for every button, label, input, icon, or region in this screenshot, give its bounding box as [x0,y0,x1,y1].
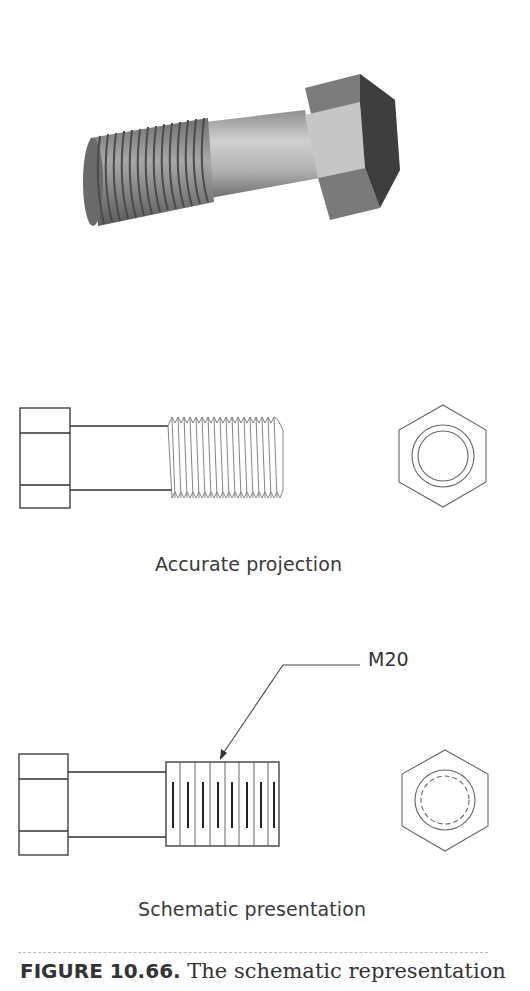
schematic-thread-dividers [180,762,268,846]
hex-head [305,74,400,220]
figure-caption: FIGURE 10.66. The schematic representati… [20,958,506,983]
accurate-end-view [380,390,510,520]
bolt-3d-render [60,60,410,240]
figure-number: FIGURE 10.66. [20,959,181,983]
thread-callout-m20: M20 [368,648,409,670]
figure-caption-text: The schematic representation [181,959,506,983]
schematic-thread-marks [173,782,274,828]
thread-section [83,118,214,226]
accurate-thread-profile [168,417,283,498]
schematic-presentation-label: Schematic presentation [138,898,366,920]
accurate-projection-label: Accurate projection [155,553,342,575]
schematic-end-view [380,730,510,860]
schematic-side-view [0,740,300,860]
accurate-side-view [0,390,320,520]
caption-divider [18,952,488,953]
